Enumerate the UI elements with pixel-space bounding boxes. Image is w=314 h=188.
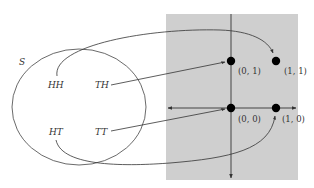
point-0-1 — [227, 57, 235, 65]
random-variable-mapping-diagram: S HH TH HT TT (0, 1) (1, 1) (0, 0) (1, 0… — [0, 0, 314, 188]
point-0-0 — [227, 104, 235, 112]
point-1-1 — [272, 57, 280, 65]
sample-space-ellipse — [12, 49, 146, 165]
outcome-ht: HT — [48, 127, 64, 137]
outcome-th: TH — [95, 80, 109, 90]
point-1-0 — [272, 104, 280, 112]
outcome-tt: TT — [95, 127, 108, 137]
point-label-0-0: (0, 0) — [238, 114, 261, 124]
point-label-0-1: (0, 1) — [238, 66, 261, 76]
point-label-1-1: (1, 1) — [284, 66, 307, 76]
plane-background — [166, 14, 298, 180]
point-label-1-0: (1, 0) — [282, 114, 305, 124]
set-label: S — [19, 57, 25, 67]
outcome-hh: HH — [47, 80, 64, 90]
